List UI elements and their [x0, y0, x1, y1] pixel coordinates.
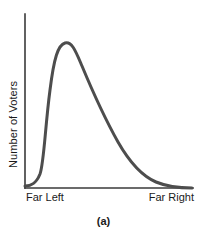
y-axis-title: Number of Voters	[6, 0, 20, 168]
voter-distribution-curve	[25, 43, 192, 188]
distribution-chart-svg	[0, 0, 207, 200]
x-axis-label-far-right: Far Right	[149, 191, 194, 204]
plot-area: Number of Voters Far Left Far Right	[0, 0, 207, 200]
figure-caption: (a)	[0, 215, 207, 227]
x-axis-label-far-left: Far Left	[26, 191, 64, 204]
figure-container: Number of Voters Far Left Far Right (a)	[0, 0, 207, 241]
